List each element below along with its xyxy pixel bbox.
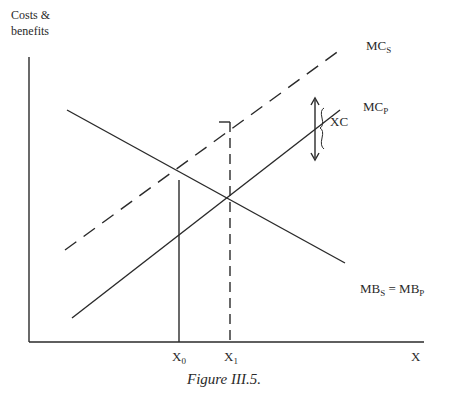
mcp-label: MCP xyxy=(363,100,388,118)
mcp-label-sub: P xyxy=(383,106,388,116)
mb-label-eq: = xyxy=(385,281,399,296)
x1-sub: 1 xyxy=(233,356,238,366)
xc-brace xyxy=(320,108,324,149)
mcs-label-main: MC xyxy=(366,38,386,53)
mb-label-left: MB xyxy=(360,281,380,296)
mb-label-right-sub: P xyxy=(419,288,424,298)
y-axis-label-line2: benefits xyxy=(11,23,50,39)
x0-main: X xyxy=(172,349,181,364)
y-axis-label: Costs & benefits xyxy=(11,7,50,39)
mb-curve xyxy=(67,110,345,263)
mcs-curve xyxy=(65,50,340,250)
mcs-label-sub: S xyxy=(386,45,391,55)
chart-canvas xyxy=(0,0,458,407)
x-axis-label: X xyxy=(411,350,420,364)
figure-caption: Figure III.5. xyxy=(187,371,261,388)
x1-main: X xyxy=(224,349,233,364)
mcs-label: MCS xyxy=(366,39,391,57)
mcp-curve xyxy=(72,110,340,318)
x1-tick-label: X1 xyxy=(224,350,238,368)
x0-tick-label: X0 xyxy=(172,350,186,368)
mcp-label-main: MC xyxy=(363,99,383,114)
x0-sub: 0 xyxy=(181,356,186,366)
y-axis-label-line1: Costs & xyxy=(11,7,50,23)
mb-label: MBS = MBP xyxy=(360,282,424,300)
mb-label-right: MB xyxy=(399,281,419,296)
xc-label: XC xyxy=(330,115,348,129)
